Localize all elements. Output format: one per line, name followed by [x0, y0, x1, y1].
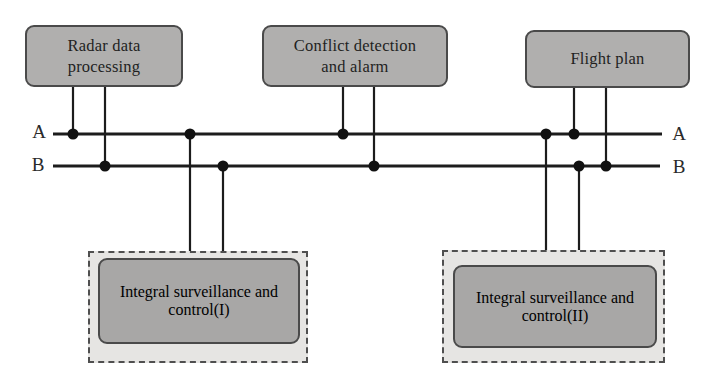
container-integral-surveillance-2: Integral surveillance and control(II) [442, 250, 665, 363]
node-isc2-label: Integral surveillance and control(II) [455, 289, 655, 325]
node-radar-label: Radar data processing [67, 35, 140, 78]
node-integral-surveillance-1: Integral surveillance and control(I) [98, 258, 300, 344]
bus-b-label-right: B [667, 155, 691, 179]
junction-dot-radar-a [68, 129, 79, 140]
bus-b-label-left: B [26, 153, 50, 177]
junction-dot-isc2-a [541, 129, 552, 140]
bus-a-label-left: A [27, 120, 51, 144]
node-flight-plan: Flight plan [525, 30, 690, 88]
junction-dot-isc2-b [574, 161, 585, 172]
node-flight-label: Flight plan [570, 48, 644, 69]
node-radar-data-processing: Radar data processing [25, 25, 183, 87]
junction-dot-flight-b [601, 161, 612, 172]
dual-bus-architecture-diagram: Radar data processing Conflict detection… [0, 0, 707, 388]
node-conflict-label: Conflict detection and alarm [294, 35, 416, 78]
bus-a-label-right: A [667, 122, 691, 146]
junction-dot-isc1-a [185, 129, 196, 140]
junction-dot-radar-b [100, 161, 111, 172]
junction-dot-isc1-b [218, 161, 229, 172]
node-conflict-detection-alarm: Conflict detection and alarm [262, 25, 448, 87]
node-integral-surveillance-2: Integral surveillance and control(II) [453, 265, 657, 348]
junction-dot-flight-a [569, 129, 580, 140]
node-isc1-label: Integral surveillance and control(I) [100, 283, 298, 319]
container-integral-surveillance-1: Integral surveillance and control(I) [88, 251, 308, 363]
junction-dot-conflict-a [338, 129, 349, 140]
junction-dot-conflict-b [369, 161, 380, 172]
